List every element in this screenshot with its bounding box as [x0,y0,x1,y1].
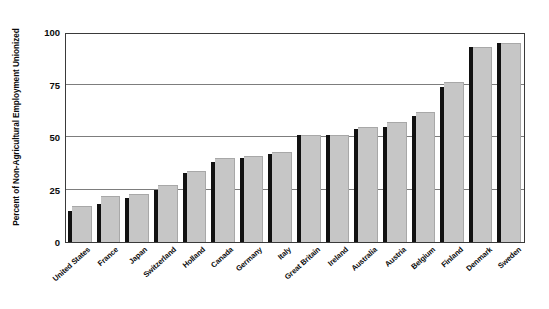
bar-group [181,34,210,242]
bar-value [387,122,407,242]
bar-value [501,43,521,243]
bar-marker [469,47,473,242]
y-axis-tick-label: 25 [34,186,60,196]
bar-group [324,34,353,242]
bar-value [215,158,235,242]
bar-group [152,34,181,242]
bar-group [295,34,324,242]
bar-group [266,34,295,242]
bar-value [444,82,464,242]
bar-group [238,34,267,242]
bar-group [95,34,124,242]
bar-marker [297,135,301,242]
bar-group [381,34,410,242]
bar-group [123,34,152,242]
bar-marker [326,135,330,242]
bar-marker [125,198,129,242]
y-axis-tick-label: 0 [34,238,60,248]
y-axis-title: Percent of Non-Agricultural Employment U… [10,2,24,252]
bar-value [473,47,493,242]
bar-group [209,34,238,242]
bar-group [410,34,439,242]
bar-marker [497,43,501,243]
plot-area [65,33,525,243]
bar-value [101,196,121,242]
bar-marker [383,127,387,243]
bar-value [244,156,264,242]
bar-chart: Percent of Non-Agricultural Employment U… [0,0,549,309]
bar-group [495,34,524,242]
bar-marker [154,190,158,243]
bar-value [129,194,149,242]
bar-value [158,185,178,242]
bar-value [330,135,350,242]
x-axis-tick-labels: United StatesFranceJapanSwitzerlandHolla… [65,245,525,309]
bar-value [187,171,207,242]
bar-value [358,127,378,243]
bar-value [72,206,92,242]
bar-marker [211,162,215,242]
bar-group [352,34,381,242]
y-axis-tick-label: 75 [34,81,60,91]
bar-group [467,34,496,242]
bar-marker [440,87,444,242]
y-axis-tick-label: 100 [34,28,60,38]
bar-marker [412,116,416,242]
bar-marker [183,173,187,242]
bar-marker [268,154,272,242]
bar-group [66,34,95,242]
bar-value [272,152,292,242]
bar-group [438,34,467,242]
bar-marker [240,158,244,242]
bar-marker [68,211,72,243]
y-axis-tick-labels: 0255075100 [30,0,60,309]
bar-marker [97,204,101,242]
bar-value [301,135,321,242]
bar-series-container [66,34,524,242]
bar-value [416,112,436,242]
bar-marker [354,129,358,242]
y-axis-tick-label: 50 [34,133,60,143]
